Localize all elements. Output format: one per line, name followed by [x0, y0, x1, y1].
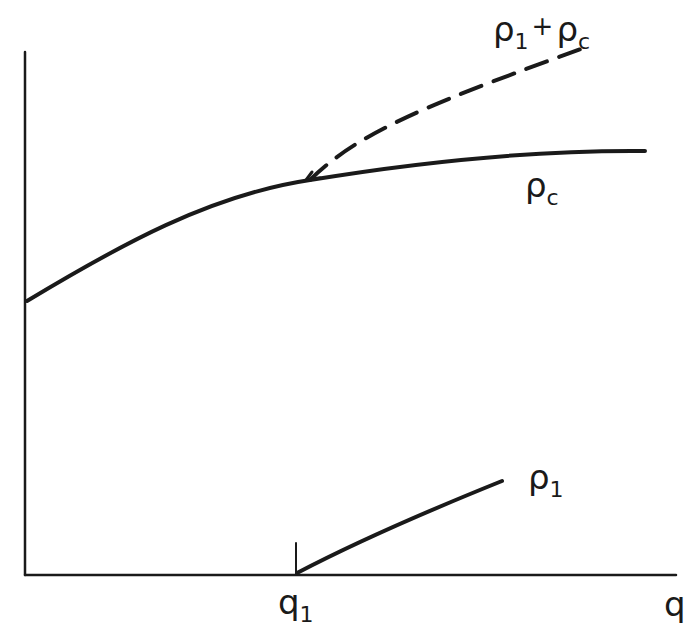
label-q: q — [664, 584, 686, 624]
label-rho-base: ρ — [493, 9, 515, 49]
rho-1-curve — [297, 481, 502, 573]
diagram-canvas — [0, 0, 696, 639]
label-rho1-plus-rhoc: ρ1+ρc — [493, 12, 590, 53]
label-sub-c: c — [578, 29, 590, 54]
x-axis-label: q — [664, 587, 686, 621]
label-sub-1: 1 — [300, 602, 314, 627]
label-plus: + — [532, 11, 554, 41]
label-q1: q1 — [278, 585, 314, 626]
label-sub-1: 1 — [515, 29, 529, 54]
label-rho-base: ρ — [528, 457, 550, 497]
label-rhoc: ρc — [525, 168, 559, 209]
label-q-base: q — [278, 582, 300, 622]
label-sub-1: 1 — [550, 477, 564, 502]
label-sub-c: c — [547, 185, 559, 210]
label-rho-base: ρ — [525, 165, 547, 205]
label-rho1: ρ1 — [528, 460, 564, 501]
label-rho-base-2: ρ — [556, 9, 578, 49]
